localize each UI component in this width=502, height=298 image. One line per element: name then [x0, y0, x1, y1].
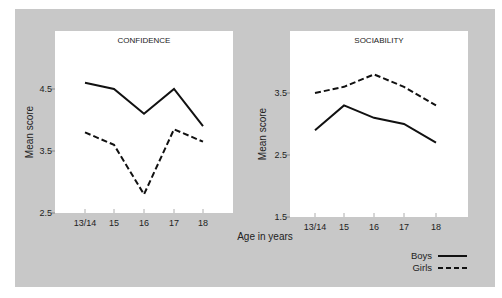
legend-label-girls: Girls	[412, 262, 432, 273]
confidence-ytick-label: 3.5	[39, 146, 52, 156]
confidence-ytick-label: 2.5	[39, 208, 52, 218]
sociability-xtick-label: 15	[339, 222, 349, 232]
legend-label-boys: Boys	[411, 250, 432, 261]
sociability-xtick-label: 17	[399, 222, 409, 232]
sociability-ytick-label: 3.5	[274, 88, 287, 98]
chart-figure: CONFIDENCE2.53.54.5Mean score13/14151617…	[0, 0, 502, 298]
confidence-title: CONFIDENCE	[118, 36, 171, 45]
confidence-xtick-label: 17	[169, 218, 179, 228]
confidence-xtick-label: 15	[109, 218, 119, 228]
shared-xlabel: Age in years	[237, 231, 293, 242]
sociability-xtick-label: 16	[369, 222, 379, 232]
sociability-plot-area	[290, 31, 468, 217]
sociability-ytick-label: 2.5	[274, 150, 287, 160]
confidence-xtick-label: 16	[139, 218, 149, 228]
confidence-xtick-label: 18	[198, 218, 208, 228]
confidence-xtick-label: 13/14	[74, 218, 97, 228]
confidence-plot-area	[55, 31, 233, 213]
sociability-xtick-label: 18	[431, 222, 441, 232]
sociability-ytick-label: 1.5	[274, 212, 287, 222]
confidence-ylabel: Mean score	[24, 105, 35, 158]
sociability-xtick-label: 13/14	[304, 222, 327, 232]
sociability-title: SOCIABILITY	[354, 36, 404, 45]
sociability-ylabel: Mean score	[257, 107, 268, 160]
confidence-ytick-label: 4.5	[39, 84, 52, 94]
